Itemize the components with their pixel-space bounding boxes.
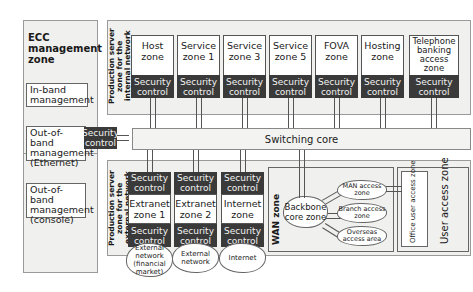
internal-zone-label: Hosting zone [362,36,403,62]
internal-security-control: Security control [131,75,174,98]
external-security-control-top: Security control [128,172,171,194]
internal-zone-label: Service zone 5 [270,36,311,62]
branch-access-label: Branch access zone [338,206,386,220]
external-network-cloud: External network (financial market) [126,243,173,277]
oob-ethernet-box: Out-of-band management (Ethernet) [26,126,86,161]
backbone-core-label: Backbone core zone [284,202,327,222]
oob-console-box: Out-of-band management (console) [26,183,86,218]
switching-core-label: Switching core [265,134,338,145]
external-link [147,150,153,172]
external-zone-2: Internet zone [221,194,264,224]
internal-security-control: Security control [269,75,312,98]
ecc-title: ECC management zone [28,32,88,65]
internal-zone-label: Telephone banking access zone [410,36,458,73]
internal-link [242,98,248,128]
internal-link [288,98,294,128]
man-access-cloud: MAN access zone [337,180,387,200]
overseas-access-cloud: Overseas access area [337,226,387,246]
branch-access-cloud: Branch access zone [337,203,387,223]
man-to-office-link [386,186,402,192]
internal-zone-label: Host zone [132,36,173,62]
wan-zone-label: WAN zone [271,185,281,245]
overseas-access-label: Overseas access area [338,229,386,243]
external-link [193,150,199,172]
internal-link [431,98,437,128]
internal-link [334,98,340,128]
inband-management-box: In-band management [26,83,88,107]
external-network-cloud: Internet [219,243,266,273]
backbone-core-link [299,150,305,198]
internal-zone-label: Production server zone for the internal … [108,24,128,108]
oob-link [117,135,129,141]
external-zone-label: Production server zone for the external … [108,164,128,252]
external-link [240,150,246,172]
external-network-cloud: External network [172,243,219,273]
internal-link [380,98,386,128]
external-security-control-top: Security control [174,172,217,194]
external-zone-1: Extranet zone 2 [174,194,217,224]
internal-security-control: Security control [315,75,358,98]
internal-zone-label: FOVA zone [316,36,357,62]
office-user-access-label: Office user access zone [409,175,417,243]
internal-link [150,98,156,128]
internal-security-control: Security control [361,75,404,98]
external-security-control-top: Security control [221,172,264,194]
internal-link [196,98,202,128]
internal-security-control: Security control [177,75,220,98]
internal-security-control: Security control [409,75,459,98]
external-zone-0: Extranet zone 1 [128,194,171,224]
user-access-label: User access zone [439,174,450,244]
external-network-label: External network [173,250,218,266]
external-network-label: Internet [229,254,257,262]
internal-security-control: Security control [223,75,266,98]
oob-security-control: Security control [84,127,117,149]
backbone-core-cloud: Backbone core zone [283,196,328,228]
man-access-label: MAN access zone [338,183,386,197]
internal-zone-label: Service zone 1 [178,36,219,62]
internal-zone-label: Service zone 3 [224,36,265,62]
external-network-label: External network (financial market) [127,244,172,276]
switching-core: Switching core [132,128,471,150]
